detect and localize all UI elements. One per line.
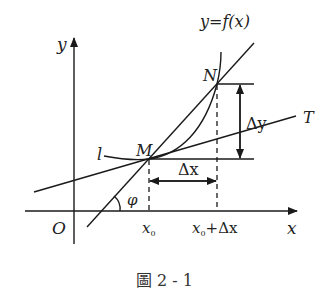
dy-label: Δy (246, 114, 267, 133)
line-l-label: l (97, 145, 102, 164)
origin-label: O (52, 218, 66, 238)
dx-label: Δx (178, 160, 199, 179)
tick-x0: x0 (142, 219, 156, 238)
derivative-diagram: y x O y=f(x) N M l T Δy Δx φ x0 x0+Δx 圖 … (0, 0, 336, 300)
x-axis-label: x (287, 218, 297, 238)
tick-x0-plus-dx: x0+Δx (192, 219, 238, 238)
y-axis-label: y (56, 34, 67, 54)
line-t-label: T (303, 108, 315, 127)
curve-label: y=f(x) (199, 12, 250, 31)
point-m-label: M (135, 141, 153, 160)
figure-caption: 圖 2 - 1 (136, 271, 193, 290)
point-n-label: N (202, 66, 218, 85)
angle-arc (114, 196, 120, 211)
angle-label: φ (127, 191, 138, 209)
